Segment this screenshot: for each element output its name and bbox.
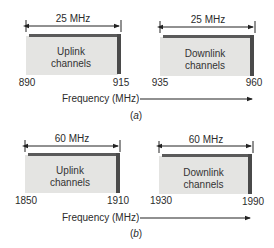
uplink-label-b-line2: channels (25, 177, 115, 189)
freq-tick-890: 890 (19, 78, 36, 88)
downlink-label-b-line2: channels (159, 179, 248, 191)
downlink-label-a-line2: channels (160, 60, 250, 72)
downlink-label-a: Downlink (160, 48, 250, 60)
caption-a: (a) (130, 111, 142, 121)
freq-tick-1850: 1850 (15, 196, 37, 206)
bandwidth-label-a-downlink: 25 MHz (191, 15, 225, 25)
frequency-axis-label-a: Frequency (MHz) (62, 94, 139, 104)
freq-tick-960: 960 (246, 78, 263, 88)
uplink-label-b: Uplink (25, 165, 115, 177)
uplink-label-a: Uplink (26, 46, 116, 58)
freq-tick-935: 935 (152, 78, 169, 88)
caption-b: (b) (130, 229, 142, 239)
freq-tick-1910: 1910 (107, 196, 129, 206)
downlink-label-b: Downlink (159, 167, 248, 179)
freq-tick-915: 915 (113, 78, 130, 88)
freq-tick-1930: 1930 (150, 196, 172, 206)
bandwidth-label-b-uplink: 60 MHz (55, 134, 89, 144)
bandwidth-label-a-uplink: 25 MHz (56, 14, 90, 24)
frequency-axis-label-b: Frequency (MHz) (62, 213, 139, 223)
uplink-label-a-line2: channels (26, 58, 116, 70)
freq-tick-1990: 1990 (242, 197, 264, 207)
bandwidth-label-b-downlink: 60 MHz (189, 135, 223, 145)
